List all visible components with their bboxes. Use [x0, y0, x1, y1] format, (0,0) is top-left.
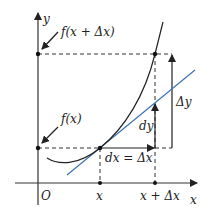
- function-curve: [47, 22, 163, 163]
- point-f-x-on-axis: [36, 146, 40, 150]
- delta-y-label: Δy: [175, 95, 192, 109]
- pointer-arrow-f-x-plus-dx: [42, 32, 58, 49]
- origin-label: O: [41, 189, 51, 203]
- diagram-canvas: y x O x x + Δx f(x + Δx) f(x) dx = Δx dy…: [0, 0, 210, 213]
- point-x-plus-dx-f: [153, 52, 157, 56]
- f-x-plus-dx-label: f(x + Δx): [60, 25, 115, 39]
- tick-x-plus-dx: [153, 181, 157, 185]
- f-x-label: f(x): [60, 112, 82, 126]
- tick-x: [98, 181, 102, 185]
- x-axis-label: x: [190, 193, 197, 207]
- point-f-x-plus-dx-on-axis: [36, 52, 40, 56]
- x-tick-label: x: [96, 189, 103, 203]
- x-plus-dx-tick-label: x + Δx: [140, 189, 180, 203]
- differential-diagram: y x O x x + Δx f(x + Δx) f(x) dx = Δx dy…: [0, 0, 210, 213]
- y-axis-label: y: [42, 12, 50, 26]
- point-x-f-x: [98, 146, 102, 150]
- pointer-arrow-f-x: [42, 127, 58, 143]
- dy-label: dy: [139, 119, 154, 133]
- dx-label: dx = Δx: [105, 151, 153, 165]
